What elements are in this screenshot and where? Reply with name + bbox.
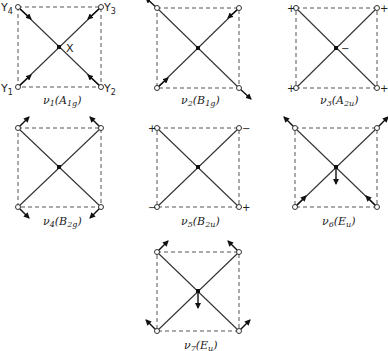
sign-plus: +: [287, 3, 295, 14]
atom-y3: [375, 6, 380, 11]
atom-y2: [99, 85, 104, 90]
mode-label: ν7(Eu): [184, 339, 218, 351]
atom-y2: [375, 205, 380, 210]
mode-v1: Y4 Y3 Y1 Y2 X ν1(A1g): [0, 1, 116, 108]
mode-label: ν5(B2u): [181, 215, 220, 229]
atom-x: [57, 45, 61, 49]
sign-plus: +: [287, 83, 295, 94]
mode-label: ν3(A2u): [320, 94, 359, 108]
atom-y3: [237, 6, 242, 11]
sign-minus: −: [341, 43, 349, 54]
atom-y1: [293, 205, 298, 210]
mode-v7: ν7(Eu): [146, 241, 250, 351]
atom-x: [57, 165, 61, 169]
label-y4: Y4: [0, 1, 13, 16]
mode-v6: ν6(Eu): [284, 117, 388, 229]
atom-x: [334, 165, 338, 169]
mode-v4: ν4(B2g): [16, 117, 104, 229]
sign-plus: +: [148, 123, 156, 134]
atom-y2: [99, 205, 104, 210]
atom-y3: [237, 250, 242, 255]
atom-y1: [16, 205, 21, 210]
sign-plus: +: [380, 83, 388, 94]
sign-plus: +: [380, 3, 388, 14]
atom-y2: [237, 329, 242, 334]
label-y2: Y2: [103, 82, 116, 97]
atom-y1: [155, 329, 160, 334]
atom-y4: [293, 126, 298, 131]
atom-y4: [16, 5, 21, 10]
mode-label: ν1(A1g): [43, 94, 82, 108]
mode-label: ν4(B2g): [43, 215, 82, 229]
vibrational-modes-diagram: Y4 Y3 Y1 Y2 X ν1(A1g) ν2(B1g) + + + +: [0, 0, 388, 351]
label-y1: Y1: [0, 82, 13, 97]
atom-y3: [375, 126, 380, 131]
atom-y1: [155, 86, 160, 91]
atom-x: [196, 289, 200, 293]
atom-y3: [99, 5, 104, 10]
mode-v3: + + + + − ν3(A2u): [287, 3, 388, 108]
atom-y4: [155, 6, 160, 11]
atom-y4: [155, 250, 160, 255]
sign-minus: −: [242, 123, 250, 134]
atom-y1: [16, 85, 21, 90]
atom-y4: [16, 126, 21, 131]
mode-label: ν6(Eu): [322, 215, 356, 229]
sign-plus: +: [242, 202, 250, 213]
atom-y2: [237, 205, 242, 210]
atom-y2: [375, 86, 380, 91]
sign-minus: −: [148, 202, 156, 213]
atom-x: [334, 46, 338, 50]
atom-x: [196, 165, 200, 169]
atom-y3: [99, 126, 104, 131]
mode-v5: + − − + ν5(B2u): [148, 123, 250, 229]
atom-y3: [237, 126, 242, 131]
atom-y2: [237, 86, 242, 91]
label-y3: Y3: [103, 1, 116, 16]
mode-label: ν2(B1g): [181, 94, 220, 108]
atom-x: [196, 46, 200, 50]
label-x: X: [66, 42, 74, 55]
mode-v2: ν2(B1g): [146, 0, 251, 108]
